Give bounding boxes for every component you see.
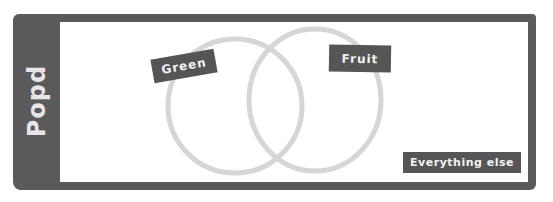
label-everything-else: Everything else (403, 152, 521, 173)
label-fruit: Fruit (329, 44, 391, 72)
